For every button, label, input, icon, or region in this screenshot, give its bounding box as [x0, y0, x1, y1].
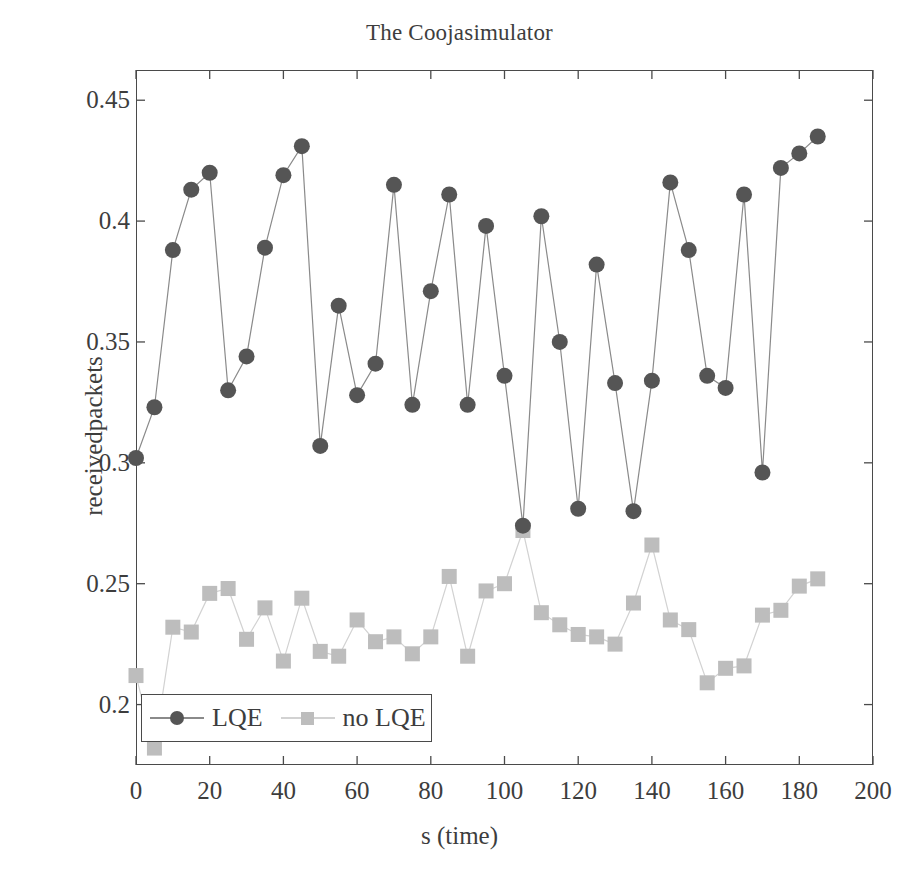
data-point-circle	[589, 257, 605, 273]
chart-legend[interactable]: LQE no LQE	[141, 694, 432, 742]
data-point-circle	[607, 375, 623, 391]
data-point-square	[221, 581, 236, 596]
data-point-square	[552, 617, 567, 632]
data-point-square	[313, 644, 328, 659]
x-tick-label: 80	[391, 777, 471, 805]
legend-entry-no-lqe[interactable]: no LQE	[281, 703, 430, 733]
x-axis-label: s (time)	[0, 822, 919, 850]
data-point-circle	[220, 382, 236, 398]
data-point-square	[773, 603, 788, 618]
data-point-square	[626, 596, 641, 611]
series-lqe	[128, 128, 826, 533]
data-point-square	[718, 661, 733, 676]
chart-title: The Coojasimulator	[0, 20, 919, 46]
x-tick-label: 140	[612, 777, 692, 805]
data-point-square	[497, 576, 512, 591]
data-point-circle	[312, 438, 328, 454]
data-point-square	[165, 620, 180, 635]
legend-marker-no-lqe	[281, 707, 335, 729]
data-point-circle	[810, 128, 826, 144]
data-point-circle	[423, 283, 439, 299]
data-point-square	[202, 586, 217, 601]
data-point-circle	[681, 242, 697, 258]
x-tick-label: 0	[96, 777, 176, 805]
data-point-circle	[533, 208, 549, 224]
data-point-square	[294, 591, 309, 606]
data-point-square	[276, 654, 291, 669]
data-point-circle	[183, 182, 199, 198]
data-point-square	[257, 600, 272, 615]
data-point-circle	[128, 450, 144, 466]
y-tick-label: 0.4	[52, 207, 130, 235]
data-point-square	[129, 668, 144, 683]
x-tick-label: 20	[170, 777, 250, 805]
data-point-circle	[275, 167, 291, 183]
data-point-circle	[257, 240, 273, 256]
data-point-square	[350, 612, 365, 627]
chart-figure: The Coojasimulator receivedpackets 0.20.…	[0, 0, 919, 872]
data-point-circle	[165, 242, 181, 258]
y-tick-label: 0.2	[52, 691, 130, 719]
y-tick-label: 0.45	[52, 86, 130, 114]
data-point-square	[386, 629, 401, 644]
data-point-square	[405, 646, 420, 661]
data-point-square	[147, 741, 162, 756]
legend-entry-lqe[interactable]: LQE	[150, 703, 267, 733]
data-point-circle	[441, 187, 457, 203]
x-tick-label: 200	[833, 777, 913, 805]
data-point-circle	[736, 187, 752, 203]
data-point-circle	[239, 348, 255, 364]
x-tick-label: 60	[317, 777, 397, 805]
data-point-circle	[515, 518, 531, 534]
data-point-square	[608, 637, 623, 652]
legend-marker-lqe	[150, 707, 204, 729]
data-point-circle	[754, 465, 770, 481]
data-point-circle	[644, 373, 660, 389]
data-point-square	[571, 627, 586, 642]
data-point-circle	[497, 368, 513, 384]
data-point-square	[368, 634, 383, 649]
data-point-square	[663, 612, 678, 627]
data-point-circle	[552, 334, 568, 350]
data-point-square	[331, 649, 346, 664]
data-point-square	[589, 629, 604, 644]
data-point-circle	[791, 145, 807, 161]
data-point-circle	[570, 501, 586, 517]
data-point-circle	[773, 160, 789, 176]
data-point-circle	[349, 387, 365, 403]
data-point-square	[810, 571, 825, 586]
data-point-circle	[460, 397, 476, 413]
data-point-square	[534, 605, 549, 620]
data-point-square	[681, 622, 696, 637]
x-tick-label: 40	[243, 777, 323, 805]
data-point-circle	[625, 503, 641, 519]
x-tick-label: 160	[686, 777, 766, 805]
square-marker-icon	[301, 712, 314, 725]
x-tick-label: 100	[465, 777, 545, 805]
data-point-circle	[478, 218, 494, 234]
data-series-layer	[128, 128, 826, 755]
data-point-square	[184, 625, 199, 640]
data-point-circle	[294, 138, 310, 154]
data-point-circle	[699, 368, 715, 384]
data-point-circle	[331, 298, 347, 314]
y-tick-label: 0.35	[52, 328, 130, 356]
legend-label-lqe: LQE	[212, 703, 263, 733]
plot-canvas	[136, 70, 873, 765]
data-point-circle	[718, 380, 734, 396]
data-point-square	[737, 658, 752, 673]
data-point-square	[792, 579, 807, 594]
data-point-square	[460, 649, 475, 664]
x-axis-tick-labels: 020406080100120140160180200	[0, 777, 919, 817]
y-axis-tick-labels: 0.20.250.30.350.40.45	[30, 0, 130, 872]
data-point-square	[700, 675, 715, 690]
axis-ticks	[136, 70, 873, 765]
x-tick-label: 120	[538, 777, 618, 805]
data-point-square	[423, 629, 438, 644]
y-tick-label: 0.3	[52, 449, 130, 477]
x-tick-label: 180	[759, 777, 839, 805]
data-point-circle	[386, 177, 402, 193]
data-point-square	[479, 583, 494, 598]
legend-label-no-lqe: no LQE	[343, 703, 426, 733]
data-point-circle	[404, 397, 420, 413]
